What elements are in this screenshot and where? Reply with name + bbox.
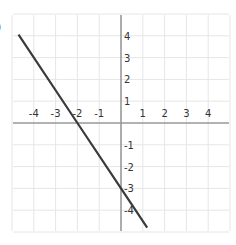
x-tick-label: 1 [140, 108, 146, 119]
x-tick-label: 3 [183, 108, 189, 119]
plotted-line [19, 35, 148, 228]
y-tick-label: -3 [124, 183, 134, 194]
x-tick-label: -1 [94, 108, 104, 119]
y-tick-label: 4 [124, 31, 130, 42]
x-tick-label: 2 [161, 108, 167, 119]
line-series [19, 35, 148, 228]
x-tick-labels: -4-3-2-11234 [29, 108, 212, 119]
y-tick-label: -1 [124, 140, 134, 151]
x-tick-label: 4 [205, 108, 211, 119]
axes [13, 15, 229, 231]
y-tick-label: 2 [124, 74, 130, 85]
y-tick-label: -2 [124, 162, 134, 173]
x-tick-label: -4 [29, 108, 39, 119]
x-tick-label: -3 [51, 108, 61, 119]
y-tick-label: 3 [124, 53, 130, 64]
coordinate-graph: -4-3-2-11234 4321-1-2-3-4 [0, 0, 236, 245]
y-tick-label: 1 [124, 96, 130, 107]
